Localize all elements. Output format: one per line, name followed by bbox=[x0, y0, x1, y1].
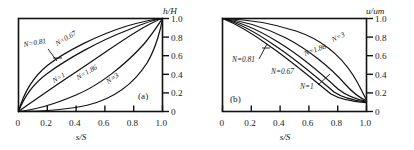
panel-b-xticks bbox=[223, 106, 367, 112]
panel-b-label: (b) bbox=[230, 94, 241, 104]
figure-svg: h/H 1.0 bbox=[0, 0, 414, 150]
panel-a-xtick-label: 0 bbox=[16, 118, 21, 128]
panel-a-ytick-label: 0.4 bbox=[171, 70, 183, 80]
panel-b: u/um 1.0 bbox=[220, 6, 387, 142]
panel-a-label-n081: N=0.81 bbox=[22, 36, 47, 49]
panel-a-xtick-label: 0.2 bbox=[40, 118, 52, 128]
panel-a-ytick-label: 0.6 bbox=[171, 51, 183, 61]
panel-a-label-n1: N=1 bbox=[50, 70, 67, 85]
panel-a-xtick-label: 0.4 bbox=[69, 118, 81, 128]
panel-b-xtick-label: 0.4 bbox=[273, 118, 285, 128]
panel-b-ytick-label: 0.8 bbox=[375, 33, 387, 43]
figure-container: h/H 1.0 bbox=[0, 0, 414, 150]
panel-b-label-n081: N=0.81 bbox=[231, 55, 255, 64]
panel-b-label-n1: N=1 bbox=[299, 82, 314, 91]
panel-b-ytick-label: 1.0 bbox=[375, 14, 387, 24]
panel-a-label-n067: N=0.67 bbox=[53, 28, 78, 48]
panel-b-ytick-label: 0.6 bbox=[375, 51, 387, 61]
panel-a-ytick-labels: 1.0 0.8 0.6 0.4 0.2 0 bbox=[171, 14, 183, 117]
panel-b-ytick-label: 0.4 bbox=[375, 70, 387, 80]
panel-b-label-n067: N=0.67 bbox=[270, 67, 294, 76]
panel-b-xtick-label: 1.0 bbox=[360, 118, 372, 128]
panel-a-ytick-label: 0.2 bbox=[171, 88, 183, 98]
panel-b-xtick-label: 0.6 bbox=[302, 118, 314, 128]
panel-b-xtick-labels: 0 0.2 0.4 0.6 0.8 1.0 bbox=[220, 118, 372, 128]
panel-b-ytick-labels: 1.0 0.8 0.6 0.4 0.2 0 bbox=[375, 14, 387, 117]
panel-b-ytick-label: 0.2 bbox=[375, 88, 387, 98]
panel-a-label: (a) bbox=[138, 91, 148, 101]
panel-b-leader-n081 bbox=[259, 44, 267, 59]
panel-b-xtick-label: 0 bbox=[220, 118, 225, 128]
panel-a-ytick-label: 0.8 bbox=[171, 33, 183, 43]
panel-b-xtick-label: 0.8 bbox=[331, 118, 343, 128]
panel-a-yticks bbox=[163, 19, 170, 112]
panel-a-xtick-label: 0.8 bbox=[127, 118, 139, 128]
panel-a-ytick-label: 1.0 bbox=[171, 14, 183, 24]
panel-b-ytick-label: 0 bbox=[375, 107, 380, 117]
panel-a-leader-n081 bbox=[48, 49, 57, 61]
panel-b-xtick-label: 0.2 bbox=[244, 118, 256, 128]
panel-b-label-n3: N=3 bbox=[329, 30, 346, 44]
panel-b-xlabel: s/S bbox=[280, 132, 291, 142]
panel-a-xtick-labels: 0 0.2 0.4 0.6 0.8 1.0 bbox=[16, 118, 168, 128]
panel-b-yticks bbox=[367, 19, 374, 112]
panel-a-ytick-label: 0 bbox=[171, 107, 176, 117]
panel-a-xtick-label: 1.0 bbox=[156, 118, 168, 128]
panel-a-xtick-label: 0.6 bbox=[98, 118, 110, 128]
panel-a: h/H 1.0 bbox=[16, 6, 183, 142]
panel-a-label-n3: N=3 bbox=[103, 71, 120, 87]
panel-a-xlabel: s/S bbox=[76, 132, 87, 142]
